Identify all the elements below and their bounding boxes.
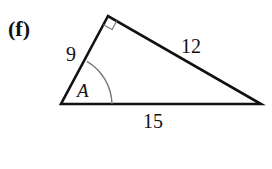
triangle-outline: [61, 16, 261, 104]
side-label-12: 12: [181, 35, 201, 57]
part-label: (f): [8, 16, 30, 41]
right-triangle-diagram: (f) 9 12 15 A: [0, 0, 272, 169]
side-label-9: 9: [66, 43, 76, 65]
figure-panel: (f) 9 12 15 A: [0, 0, 272, 169]
angle-arc: [87, 61, 112, 104]
angle-label-a: A: [75, 80, 89, 101]
side-label-15: 15: [143, 110, 163, 132]
